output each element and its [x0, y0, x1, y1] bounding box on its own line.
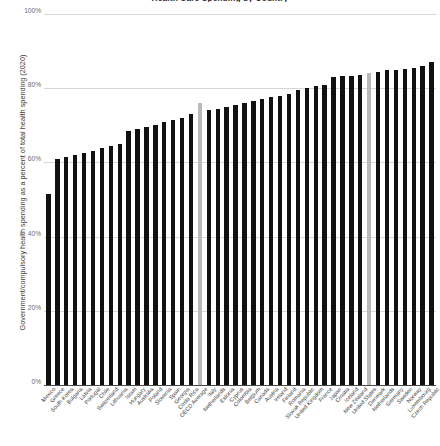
bar: [376, 72, 380, 385]
bar: [287, 94, 291, 385]
bar: [269, 97, 273, 385]
bar: [305, 88, 309, 385]
bar: [340, 76, 344, 385]
bar: [260, 99, 264, 385]
y-axis-tick: 80%: [28, 81, 41, 88]
bar: [126, 131, 130, 385]
bar: [322, 85, 326, 386]
bar: [109, 146, 113, 385]
y-axis-tick: 0%: [31, 378, 41, 385]
plot-area: [44, 14, 436, 385]
bar: [64, 157, 68, 385]
bar: [367, 73, 371, 385]
y-axis-tick: 20%: [28, 304, 41, 311]
bar: [180, 118, 184, 385]
y-axis-tick: 40%: [28, 230, 41, 237]
chart-title: Health Care Spending by Country: [0, 0, 440, 2]
bar: [189, 114, 193, 385]
bar: [198, 103, 202, 385]
chart-figure: Health Care Spending by Country Governme…: [0, 0, 440, 446]
bar: [331, 77, 335, 385]
bar: [73, 155, 77, 385]
bar: [251, 101, 255, 385]
bar: [412, 68, 416, 385]
bar: [82, 153, 86, 385]
bar: [349, 76, 353, 385]
bar: [278, 96, 282, 385]
y-axis-tick: 60%: [28, 155, 41, 162]
bar: [420, 66, 424, 385]
bar: [314, 86, 318, 385]
bar: [118, 144, 122, 385]
bar: [91, 151, 95, 385]
bar: [144, 127, 148, 385]
y-axis-tick-labels: 100%80%60%40%20%0%: [0, 14, 41, 385]
bar: [216, 109, 220, 385]
bar: [403, 69, 407, 385]
bar: [207, 110, 211, 385]
bar: [46, 194, 50, 385]
bar: [55, 159, 59, 385]
bar: [394, 70, 398, 385]
bar: [385, 70, 389, 385]
bar: [358, 75, 362, 385]
bar: [153, 125, 157, 385]
bar: [242, 103, 246, 385]
bar: [100, 148, 104, 385]
bar: [162, 122, 166, 385]
x-axis-tick-labels: MexicoGreeceSouth KoreaBulgariaLatviaPor…: [44, 386, 436, 446]
bar: [296, 90, 300, 385]
bar: [233, 105, 237, 385]
bar: [171, 120, 175, 385]
bar-series: [44, 14, 436, 385]
bar: [135, 129, 139, 385]
bar: [224, 107, 228, 385]
y-axis-tick: 100%: [24, 7, 41, 14]
bar: [429, 62, 433, 385]
